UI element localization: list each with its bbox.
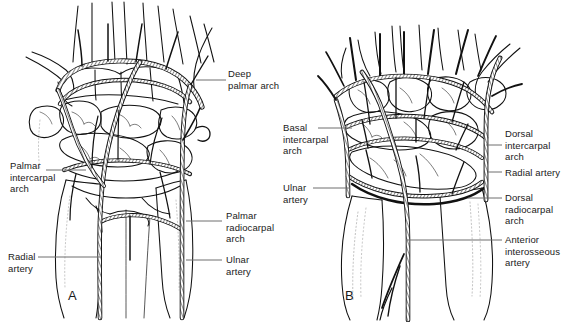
anatomical-figure: Deep palmar arch Palmar intercarpal arch… <box>0 0 575 322</box>
wrist-arterial-anatomy-illustration <box>0 0 575 322</box>
label-ulnar-artery-b: Ulnar artery <box>283 182 308 205</box>
label-radial-artery: Radial artery <box>8 251 36 274</box>
label-deep-palmar-arch: Deep palmar arch <box>228 68 279 91</box>
label-basal-intercarpal-arch: Basal intercarpal arch <box>283 122 328 157</box>
label-dorsal-radiocarpal-arch: Dorsal radiocarpal arch <box>505 192 553 227</box>
label-ulnar-artery: Ulnar artery <box>226 254 251 277</box>
label-anterior-interosseous-artery: Anterior interosseous artery <box>505 234 560 269</box>
label-palmar-radiocarpal-arch: Palmar radiocarpal arch <box>226 210 274 245</box>
panel-letter-b: B <box>345 288 354 303</box>
panel-letter-a: A <box>68 288 77 303</box>
label-dorsal-intercarpal-arch: Dorsal intercarpal arch <box>505 128 550 163</box>
label-radial-artery-b: Radial artery <box>505 167 560 179</box>
label-palmar-intercarpal-arch: Palmar intercarpal arch <box>10 160 55 195</box>
